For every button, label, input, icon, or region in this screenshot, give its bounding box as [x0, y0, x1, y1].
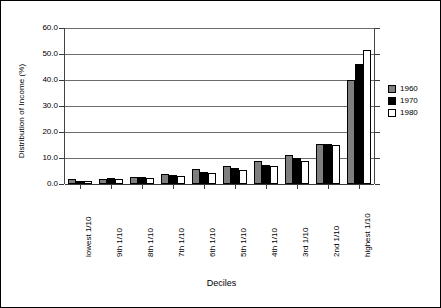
x-tick-mark [235, 185, 236, 189]
bar-group [126, 28, 157, 184]
bar-1980-6th-1-10[interactable] [208, 173, 216, 184]
y-tick-mark [59, 158, 64, 159]
y-tick-label: 40.0 [18, 76, 58, 84]
bar-1970-9th-1-10[interactable] [107, 178, 115, 184]
y-tick-label: 50.0 [18, 50, 58, 58]
bar-group [219, 28, 250, 184]
bar-1970-lowest-1-10[interactable] [76, 181, 84, 184]
bar-1980-9th-1-10[interactable] [115, 179, 123, 184]
bar-group [313, 28, 344, 184]
chart-legend: 196019701980 [388, 83, 436, 119]
legend-swatch-icon [388, 85, 396, 93]
x-tick: 5th 1/10 [219, 185, 250, 257]
legend-label: 1970 [400, 97, 418, 105]
bar-1980-highest-1-10[interactable] [363, 50, 371, 184]
bar-1980-2nd-1-10[interactable] [332, 145, 340, 184]
x-tick-mark [266, 185, 267, 189]
x-tick-mark [204, 185, 205, 189]
x-tick: 2nd 1/10 [313, 185, 344, 257]
bar-1970-highest-1-10[interactable] [355, 64, 363, 184]
y-tick-mark [59, 132, 64, 133]
x-axis-ticks: lowest 1/109th 1/108th 1/107th 1/106th 1… [64, 185, 375, 257]
bar-group [282, 28, 313, 184]
legend-label: 1980 [400, 109, 418, 117]
bar-1960-5th-1-10[interactable] [223, 166, 231, 184]
y-tick-mark-right [375, 80, 380, 81]
x-tick: lowest 1/10 [64, 185, 95, 257]
bar-group [157, 28, 188, 184]
legend-item-1980[interactable]: 1980 [388, 107, 436, 118]
x-tick: highest 1/10 [344, 185, 375, 257]
y-tick-mark-right [375, 28, 380, 29]
x-tick-mark [142, 185, 143, 189]
x-tick: 3rd 1/10 [282, 185, 313, 257]
bar-1970-2nd-1-10[interactable] [324, 144, 332, 184]
bar-1970-8th-1-10[interactable] [138, 177, 146, 184]
legend-swatch-icon [388, 109, 396, 117]
bar-1960-6th-1-10[interactable] [192, 169, 200, 184]
x-tick-mark [328, 185, 329, 189]
y-tick-mark [59, 28, 64, 29]
y-tick-label: 20.0 [18, 128, 58, 136]
bar-1980-lowest-1-10[interactable] [84, 181, 92, 184]
bar-1960-3rd-1-10[interactable] [285, 155, 293, 184]
x-tick-label: 6th 1/10 [208, 228, 217, 257]
chart-figure: Distribution of Income (%) lowest 1/109t… [0, 0, 441, 308]
bar-groups [64, 28, 375, 184]
bar-1960-8th-1-10[interactable] [130, 177, 138, 184]
bar-1980-8th-1-10[interactable] [146, 178, 154, 185]
bar-1970-4th-1-10[interactable] [262, 165, 270, 185]
bar-1960-7th-1-10[interactable] [161, 174, 169, 184]
bar-1960-2nd-1-10[interactable] [316, 144, 324, 184]
bar-1970-7th-1-10[interactable] [169, 175, 177, 184]
bar-group [188, 28, 219, 184]
x-tick: 9th 1/10 [95, 185, 126, 257]
bar-1960-highest-1-10[interactable] [347, 80, 355, 184]
y-tick-label: 60.0 [18, 24, 58, 32]
x-tick-mark [173, 185, 174, 189]
bar-1960-lowest-1-10[interactable] [68, 179, 76, 184]
legend-item-1960[interactable]: 1960 [388, 83, 436, 94]
legend-item-1970[interactable]: 1970 [388, 95, 436, 106]
y-tick-mark [59, 80, 64, 81]
x-tick-label: 5th 1/10 [239, 228, 248, 257]
x-tick-label: 9th 1/10 [115, 228, 124, 257]
bar-1960-9th-1-10[interactable] [99, 179, 107, 184]
x-tick: 4th 1/10 [251, 185, 282, 257]
x-tick: 8th 1/10 [126, 185, 157, 257]
y-tick-label: 0.0 [18, 180, 58, 188]
bar-group [95, 28, 126, 184]
x-tick-label: highest 1/10 [363, 213, 372, 257]
bar-1970-6th-1-10[interactable] [200, 172, 208, 184]
x-tick: 6th 1/10 [188, 185, 219, 257]
x-tick-mark [111, 185, 112, 189]
x-tick-label: 4th 1/10 [270, 228, 279, 257]
bar-group [251, 28, 282, 184]
bar-1980-7th-1-10[interactable] [177, 176, 185, 184]
bar-1970-5th-1-10[interactable] [231, 168, 239, 184]
x-tick-label: 7th 1/10 [177, 228, 186, 257]
legend-swatch-icon [388, 97, 396, 105]
y-tick-mark [59, 184, 64, 185]
x-tick-label: 2nd 1/10 [332, 226, 341, 257]
x-tick-mark [359, 185, 360, 189]
y-tick-mark [59, 106, 64, 107]
bar-1960-4th-1-10[interactable] [254, 161, 262, 184]
y-tick-mark-right [375, 54, 380, 55]
bar-1980-5th-1-10[interactable] [239, 170, 247, 184]
x-tick-mark [297, 185, 298, 189]
x-tick-mark [80, 185, 81, 189]
x-tick: 7th 1/10 [157, 185, 188, 257]
y-tick-mark-right [375, 158, 380, 159]
x-tick-label: 8th 1/10 [146, 228, 155, 257]
y-tick-mark-right [375, 184, 380, 185]
bar-1980-4th-1-10[interactable] [270, 166, 278, 184]
bar-group [64, 28, 95, 184]
bar-1980-3rd-1-10[interactable] [301, 161, 309, 184]
y-tick-label: 10.0 [18, 154, 58, 162]
x-axis-title: Deciles [1, 278, 441, 288]
x-tick-label: lowest 1/10 [84, 217, 93, 257]
bar-group [344, 28, 375, 184]
bar-1970-3rd-1-10[interactable] [293, 158, 301, 184]
y-tick-mark-right [375, 132, 380, 133]
